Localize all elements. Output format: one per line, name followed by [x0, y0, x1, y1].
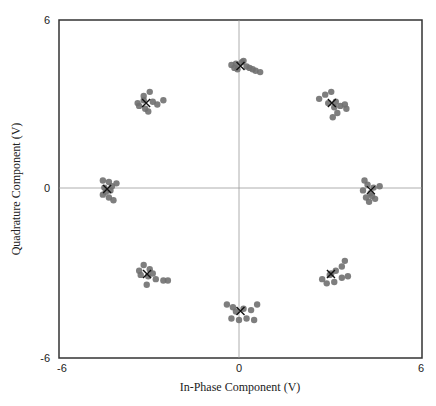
y-tick-bottom: -6 [40, 352, 50, 364]
data-point [330, 114, 336, 120]
data-point [100, 177, 106, 183]
data-point [331, 279, 337, 285]
data-point [251, 317, 257, 323]
data-point [324, 280, 330, 286]
data-point [243, 315, 249, 321]
data-point [254, 301, 260, 307]
data-point [322, 91, 328, 97]
data-point [153, 276, 159, 282]
data-point [328, 89, 334, 95]
y-axis-label: Quadrature Component (V) [9, 123, 23, 256]
data-point [231, 65, 237, 71]
data-point [345, 273, 351, 279]
data-point [342, 258, 348, 264]
data-point [147, 89, 153, 95]
data-point [136, 103, 142, 109]
data-point [316, 96, 322, 102]
data-point [376, 183, 382, 189]
data-point [160, 97, 166, 103]
data-point [165, 277, 171, 283]
data-point [141, 262, 147, 268]
data-point [339, 263, 345, 269]
data-point [110, 197, 116, 203]
x-axis-label: In-Phase Component (V) [180, 380, 301, 394]
x-tick-zero: 0 [236, 362, 242, 374]
data-point [236, 317, 242, 323]
x-tick-right: 6 [418, 362, 424, 374]
data-point [249, 66, 255, 72]
data-point [224, 301, 230, 307]
data-point [136, 267, 142, 273]
y-tick-zero: 0 [44, 182, 50, 194]
data-point [343, 106, 349, 112]
data-point [228, 315, 234, 321]
data-point [248, 307, 254, 313]
constellation-chart: 6 0 -6 -6 0 6 In-Phase Component (V) Qua… [0, 0, 436, 406]
x-tick-left: -6 [57, 362, 67, 374]
data-point [366, 198, 372, 204]
y-tick-top: 6 [44, 14, 50, 26]
data-point [360, 187, 366, 193]
data-point [257, 69, 263, 75]
data-point [154, 101, 160, 107]
data-point [339, 275, 345, 281]
data-point [144, 282, 150, 288]
data-point [145, 108, 151, 114]
data-point [113, 180, 119, 186]
